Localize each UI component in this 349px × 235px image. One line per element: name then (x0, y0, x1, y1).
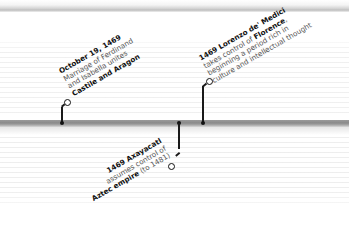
connector-line (178, 123, 180, 149)
timeline-bar (0, 120, 349, 127)
timeline-bar-shadow (0, 127, 349, 135)
event-marker-ring[interactable] (168, 163, 175, 170)
connector-line (202, 86, 204, 123)
event-marker-ring[interactable] (64, 99, 71, 106)
striped-background-upper (0, 40, 349, 114)
timeline-dot (201, 121, 205, 125)
fade-overlay (0, 190, 349, 235)
timeline-dot (60, 121, 64, 125)
